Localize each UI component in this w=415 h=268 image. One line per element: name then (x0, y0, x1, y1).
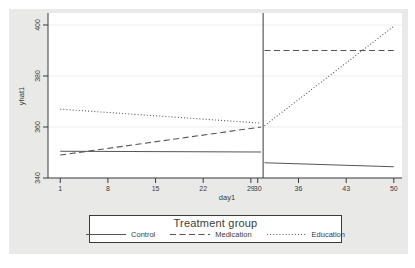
y-tick-label-380: 380 (34, 70, 41, 82)
legend-sample-dotted (267, 232, 307, 237)
x-tick-label-50: 50 (390, 185, 398, 192)
legend-sample-solid (86, 232, 126, 237)
x-tick-label-1: 1 (58, 185, 62, 192)
y-tick-label-360: 360 (34, 121, 41, 133)
legend-entry-label: Education (312, 230, 345, 239)
legend-sample-dashed (170, 232, 210, 237)
x-tick-label-36: 36 (295, 185, 303, 192)
x-tick-label-22: 22 (199, 185, 207, 192)
x-axis-title: day1 (197, 193, 257, 203)
y-tick-label-400: 400 (34, 19, 41, 31)
x-tick-label-43: 43 (342, 185, 350, 192)
plot-area (48, 13, 402, 178)
x-tick-label-15: 15 (152, 185, 160, 192)
legend-entry-control: Control (86, 230, 155, 239)
stata-graph-window: 3403603804001815222930364350 yhat1 day1 … (0, 0, 415, 268)
legend-title: Treatment group (90, 217, 341, 229)
y-axis-title: yhat1 (17, 66, 27, 126)
legend-box: Treatment group ControlMedicationEducati… (89, 215, 342, 243)
legend-entry-label: Control (131, 230, 155, 239)
legend-entry-label: Medication (215, 230, 251, 239)
y-tick-label-340: 340 (34, 172, 41, 184)
legend-entry-medication: Medication (170, 230, 251, 239)
x-tick-label-8: 8 (106, 185, 110, 192)
x-tick-label-30: 30 (254, 185, 262, 192)
legend-entry-education: Education (267, 230, 345, 239)
legend-entries: ControlMedicationEducation (90, 230, 341, 239)
